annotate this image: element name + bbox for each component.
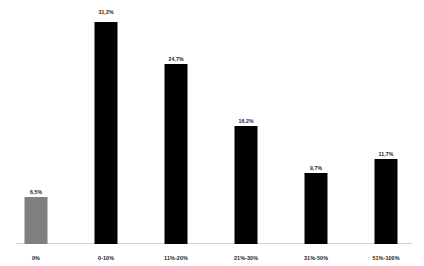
bar-rect[interactable] xyxy=(305,173,328,244)
bar-category-label: 11%-20% xyxy=(141,255,211,261)
bar-value-label: 9,7% xyxy=(310,165,322,171)
bar-rect[interactable] xyxy=(235,126,258,244)
bar-chart: 6,5% 0% 31,2% 0-10% 24,7% 11%-20% 16,2% xyxy=(0,0,424,266)
bar-value-label: 11,7% xyxy=(379,151,394,157)
bar-rect[interactable] xyxy=(375,159,398,244)
category-axis-line xyxy=(16,243,412,244)
bar-column: 9,7% xyxy=(305,22,328,244)
bar-value-label: 16,2% xyxy=(238,118,253,124)
bar-column: 16,2% xyxy=(235,22,258,244)
bar-value-label: 24,7% xyxy=(168,56,183,62)
bar-category-label: 31%-50% xyxy=(281,255,351,261)
bar-rect[interactable] xyxy=(95,22,118,244)
bar-column: 24,7% xyxy=(165,22,188,244)
bar-category-label: 0-10% xyxy=(71,255,141,261)
bar-column: 6,5% xyxy=(25,22,48,244)
bar-category-label: 51%-100% xyxy=(351,255,421,261)
bar-category-label: 0% xyxy=(1,255,71,261)
bar-rect[interactable] xyxy=(25,197,48,244)
bar-category-label: 21%-30% xyxy=(211,255,281,261)
bar-column: 11,7% xyxy=(375,22,398,244)
bar-value-label: 6,5% xyxy=(30,189,42,195)
bar-column: 31,2% xyxy=(95,22,118,244)
bar-rect[interactable] xyxy=(165,64,188,244)
bar-value-label: 31,2% xyxy=(98,9,113,15)
plot-area: 6,5% 0% 31,2% 0-10% 24,7% 11%-20% 16,2% xyxy=(0,0,424,266)
